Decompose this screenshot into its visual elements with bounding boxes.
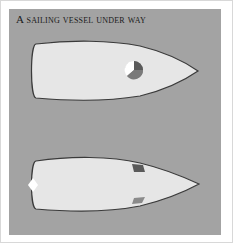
top-vessel	[32, 41, 199, 100]
vessel-diagram	[0, 0, 233, 243]
bottom-vessel	[28, 157, 199, 211]
starboard-sidelight-icon	[132, 164, 145, 172]
